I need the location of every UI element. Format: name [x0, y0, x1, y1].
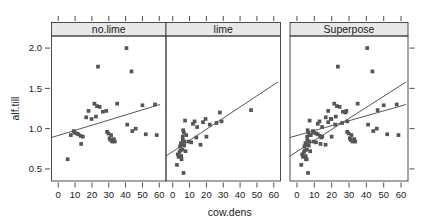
x-tick-label: 10 — [309, 189, 320, 200]
data-point — [304, 157, 308, 161]
data-point — [113, 140, 117, 144]
data-point — [306, 171, 310, 175]
data-point — [181, 135, 185, 139]
y-tick-label: 2.0 — [29, 42, 42, 53]
data-point — [308, 149, 312, 153]
data-point — [375, 127, 379, 131]
data-point — [307, 144, 311, 148]
data-point — [130, 129, 134, 133]
data-point — [193, 120, 197, 124]
data-point — [84, 116, 88, 120]
data-point — [307, 140, 311, 144]
data-point — [101, 110, 105, 114]
data-point — [180, 148, 184, 152]
data-point — [199, 143, 203, 147]
data-point — [344, 111, 348, 115]
data-point — [340, 121, 344, 125]
data-point — [305, 135, 309, 139]
data-point — [249, 108, 253, 112]
data-point — [324, 143, 328, 147]
data-point — [66, 157, 70, 161]
data-point — [371, 129, 375, 133]
x-tick-label: 20 — [201, 189, 212, 200]
data-point — [179, 154, 183, 158]
data-point — [90, 117, 94, 121]
data-point — [314, 140, 318, 144]
panel-data-strip-lime — [166, 82, 278, 175]
data-point — [141, 103, 145, 107]
data-point — [305, 148, 309, 152]
data-point — [87, 109, 91, 113]
data-point — [79, 142, 83, 146]
data-point — [319, 142, 323, 146]
data-point — [195, 125, 199, 129]
data-point — [215, 121, 219, 125]
x-tick-label: 40 — [120, 189, 131, 200]
data-point — [353, 140, 357, 144]
data-point — [69, 133, 73, 137]
data-point — [345, 120, 349, 124]
data-point — [189, 140, 193, 144]
x-tick-label: 60 — [154, 189, 165, 200]
data-point — [125, 123, 129, 127]
data-point — [175, 163, 179, 167]
data-point — [397, 133, 401, 137]
data-point — [318, 120, 322, 124]
data-point — [329, 117, 333, 121]
plot-canvas: no.lime0102030405060lime0102030405060Sup… — [0, 0, 427, 224]
data-point — [333, 123, 337, 127]
data-point — [184, 133, 188, 137]
x-tick-label: 0 — [294, 189, 299, 200]
data-point — [220, 120, 224, 124]
data-point — [330, 135, 334, 139]
data-point — [109, 133, 113, 137]
data-point — [194, 136, 198, 140]
data-point — [81, 135, 85, 139]
data-point — [309, 133, 313, 137]
x-tick-label: 30 — [218, 189, 229, 200]
data-point — [385, 132, 389, 136]
y-tick-label: 1.5 — [29, 83, 42, 94]
data-point — [304, 154, 308, 158]
data-point — [356, 102, 360, 106]
strip-lime-label: lime — [214, 23, 233, 35]
data-point — [130, 70, 134, 74]
y-tick-label: 0.5 — [29, 163, 42, 174]
data-point — [338, 105, 342, 109]
panel-data-strip-superpose — [290, 46, 406, 175]
trellis-plot: no.lime0102030405060lime0102030405060Sup… — [0, 0, 427, 224]
data-point — [94, 115, 98, 119]
data-point — [96, 65, 100, 69]
data-point — [144, 132, 148, 136]
y-tick-label: 1.0 — [29, 123, 42, 134]
data-point — [366, 123, 370, 127]
x-tick-label: 30 — [103, 189, 114, 200]
data-point — [324, 116, 328, 120]
data-point — [155, 133, 159, 137]
x-tick-label: 30 — [344, 189, 355, 200]
data-point — [336, 65, 340, 69]
data-point — [104, 109, 108, 113]
data-point — [334, 115, 338, 119]
x-tick-label: 50 — [252, 189, 263, 200]
data-point — [376, 108, 380, 112]
data-point — [125, 46, 129, 50]
x-tick-label: 50 — [137, 189, 148, 200]
x-tick-label: 20 — [326, 189, 337, 200]
strip-superpose-label: Superpose — [324, 23, 375, 35]
data-point — [208, 123, 212, 127]
data-point — [201, 120, 205, 124]
data-point — [350, 133, 354, 137]
data-point — [319, 136, 323, 140]
panel-data-strip-no-lime — [52, 46, 161, 161]
data-point — [371, 70, 375, 74]
data-point — [98, 105, 102, 109]
data-point — [182, 144, 186, 148]
data-point — [134, 127, 138, 131]
data-point — [395, 103, 399, 107]
data-point — [183, 140, 187, 144]
x-tick-label: 0 — [170, 189, 175, 200]
x-tick-label: 40 — [361, 189, 372, 200]
data-point — [204, 117, 208, 121]
data-point — [115, 102, 119, 106]
